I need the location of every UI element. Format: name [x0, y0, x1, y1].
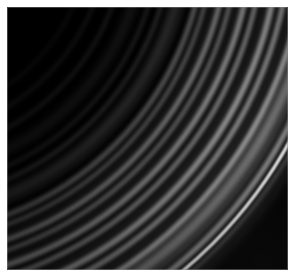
ring-photograph: [7, 7, 288, 270]
ring-arcs-render: [7, 7, 288, 270]
image-viewport: [0, 0, 295, 276]
